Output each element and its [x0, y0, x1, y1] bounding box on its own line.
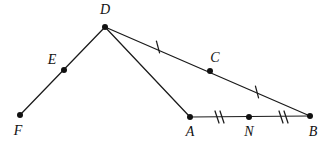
geometry-diagram: D E F C A N B — [0, 0, 324, 146]
vertex-label-c: C — [210, 50, 220, 65]
vertex-dot-b — [307, 113, 313, 119]
vertex-dot-n — [246, 114, 252, 120]
vertex-dot-a — [187, 114, 193, 120]
vertex-label-f: F — [13, 123, 23, 138]
vertex-label-a: A — [185, 124, 195, 139]
geometry-canvas: D E F C A N B — [0, 0, 324, 146]
vertex-label-d: D — [99, 2, 110, 17]
single-tick-on-dc — [156, 41, 159, 53]
vertex-labels-group: D E F C A N B — [13, 2, 318, 139]
vertex-label-n: N — [243, 124, 254, 139]
vertex-label-b: B — [309, 124, 318, 139]
vertex-dot-e — [61, 67, 67, 73]
vertex-dot-d — [102, 24, 108, 30]
vertex-label-e: E — [47, 52, 57, 67]
tick-marks-group — [156, 41, 288, 123]
segment-d-a — [105, 27, 190, 117]
double-tick-on-nb — [279, 111, 288, 123]
vertex-dot-f — [17, 112, 23, 118]
vertex-dot-c — [207, 68, 213, 74]
